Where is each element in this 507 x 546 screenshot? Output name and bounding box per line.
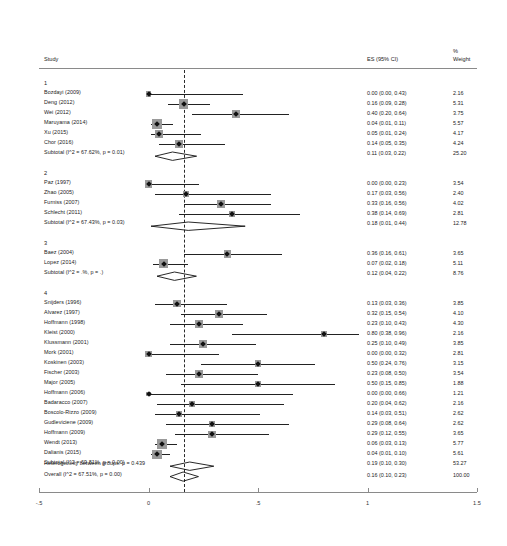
ci-line (170, 324, 242, 325)
study-es-value: 0.20 (0.04, 0.62) (367, 400, 407, 406)
study-es-value: 0.14 (0.05, 0.35) (367, 140, 407, 146)
ci-line (179, 214, 299, 215)
study-weight-value: 2.81 (453, 210, 464, 216)
group-heading: 1 (44, 80, 47, 86)
axis-tick (368, 488, 369, 492)
study-weight-value: 2.81 (453, 350, 464, 356)
ci-line (149, 354, 219, 355)
study-label: Lopez (2014) (44, 260, 76, 265)
study-weight-value: 3.75 (453, 110, 464, 116)
study-weight-value: 3.85 (453, 340, 464, 346)
ci-line (157, 404, 284, 405)
study-es-value: 0.00 (0.00, 0.23) (367, 180, 407, 186)
study-weight-value: 2.16 (453, 90, 464, 96)
overall-diamond (169, 471, 199, 482)
axis-tick-label: 1.5 (473, 500, 481, 506)
study-weight-value: 2.16 (453, 330, 464, 336)
overall-label: Overall (I^2 = 67.51%, p = 0.00) (44, 472, 122, 477)
study-es-value: 0.04 (0.01, 0.10) (367, 450, 407, 456)
study-es-value: 0.36 (0.16, 0.61) (367, 250, 407, 256)
study-weight-value: 2.40 (453, 190, 464, 196)
study-es-value: 0.04 (0.01, 0.11) (367, 120, 406, 126)
study-label: Schlecht (2011) (44, 210, 82, 215)
study-weight-value: 1.21 (453, 390, 464, 396)
study-weight-value: 3.65 (453, 250, 464, 256)
axis-tick-label: 0 (147, 500, 150, 506)
study-es-value: 0.29 (0.08, 0.64) (367, 420, 407, 426)
study-weight-value: 2.62 (453, 420, 464, 426)
study-label: Gudleviciene (2009) (44, 420, 93, 425)
study-label: Fischer (2003) (44, 370, 79, 375)
ci-line (166, 424, 289, 425)
study-es-value: 0.50 (0.24, 0.76) (367, 360, 407, 366)
study-label: Wendt (2013) (44, 440, 77, 445)
study-es-value: 0.05 (0.01, 0.24) (367, 130, 407, 136)
study-label: Koskinen (2003) (44, 360, 84, 365)
study-label: Wei (2012) (44, 110, 71, 115)
study-es-value: 0.32 (0.15, 0.54) (367, 310, 407, 316)
study-es-value: 0.29 (0.12, 0.55) (367, 430, 407, 436)
ci-line (184, 204, 272, 205)
subtotal-label: Subtotal (I^2 = 67.43%, p = 0.03) (44, 220, 125, 225)
subtotal-diamond (169, 461, 215, 471)
subtotal-weight-value: 8.76 (453, 270, 464, 276)
study-weight-value: 5.57 (453, 120, 464, 126)
study-es-value: 0.00 (0.00, 0.43) (367, 90, 407, 96)
study-weight-value: 4.17 (453, 130, 464, 136)
study-label: Deng (2012) (44, 100, 75, 105)
study-weight-value: 3.85 (453, 300, 464, 306)
ci-line (153, 264, 188, 265)
study-label: Badaracco (2007) (44, 400, 88, 405)
study-label: Hoffmann (2009) (44, 430, 85, 435)
subtotal-label: Subtotal (I^2 = .%, p = .) (44, 270, 103, 275)
study-es-value: 0.23 (0.10, 0.43) (367, 320, 407, 326)
axis-tick-label: 1 (366, 500, 369, 506)
study-label: Kleist (2000) (44, 330, 75, 335)
study-es-value: 0.00 (0.00, 0.66) (367, 390, 407, 396)
subtotal-weight-value: 25.20 (453, 150, 467, 156)
subtotal-diamond (156, 271, 197, 281)
study-label: Xu (2015) (44, 130, 68, 135)
study-label: Mork (2001) (44, 350, 74, 355)
study-es-value: 0.00 (0.00, 0.32) (367, 350, 407, 356)
study-label: Hoffmann (2006) (44, 390, 85, 395)
study-weight-value: 4.24 (453, 140, 464, 146)
heterogeneity-text: Heterogeneity between groups: p = 0.439 (44, 461, 145, 466)
axis-tick (39, 488, 40, 492)
study-es-value: 0.06 (0.03, 0.13) (367, 440, 407, 446)
group-heading: 2 (44, 170, 47, 176)
study-label: Furniss (2007) (44, 200, 79, 205)
study-es-value: 0.16 (0.09, 0.28) (367, 100, 407, 106)
subtotal-label: Subtotal (I^2 = 67.62%, p = 0.01) (44, 150, 125, 155)
study-weight-value: 4.30 (453, 320, 464, 326)
study-label: Klussmann (2001) (44, 340, 89, 345)
study-label: Baez (2004) (44, 250, 74, 255)
ci-line (166, 374, 258, 375)
ci-line (175, 434, 269, 435)
column-header-weight-pct: % (453, 48, 458, 54)
overall-weight-value: 100.00 (453, 472, 470, 478)
study-weight-value: 4.10 (453, 310, 464, 316)
study-label: Snijders (1996) (44, 300, 81, 305)
study-weight-value: 5.31 (453, 100, 464, 106)
study-weight-value: 4.02 (453, 200, 464, 206)
study-weight-value: 5.77 (453, 440, 464, 446)
study-weight-value: 2.62 (453, 410, 464, 416)
ci-line (181, 314, 266, 315)
study-label: Bozdayi (2009) (44, 90, 81, 95)
study-weight-value: 3.54 (453, 370, 464, 376)
study-label: Boscolo-Rizzo (2009) (44, 410, 97, 415)
study-weight-value: 1.88 (453, 380, 464, 386)
subtotal-weight-value: 12.78 (453, 220, 467, 226)
column-header-weight: Weight (453, 56, 470, 62)
study-es-value: 0.14 (0.03, 0.51) (367, 410, 407, 416)
study-label: Paz (1997) (44, 180, 71, 185)
study-weight-value: 5.11 (453, 260, 463, 266)
study-es-value: 0.40 (0.20, 0.64) (367, 110, 407, 116)
study-label: Major (2005) (44, 380, 75, 385)
column-header-study: Study (44, 56, 58, 62)
study-es-value: 0.33 (0.16, 0.56) (367, 200, 407, 206)
study-label: Chor (2016) (44, 140, 73, 145)
study-weight-value: 2.16 (453, 400, 464, 406)
subtotal-weight-value: 53.27 (453, 460, 467, 466)
